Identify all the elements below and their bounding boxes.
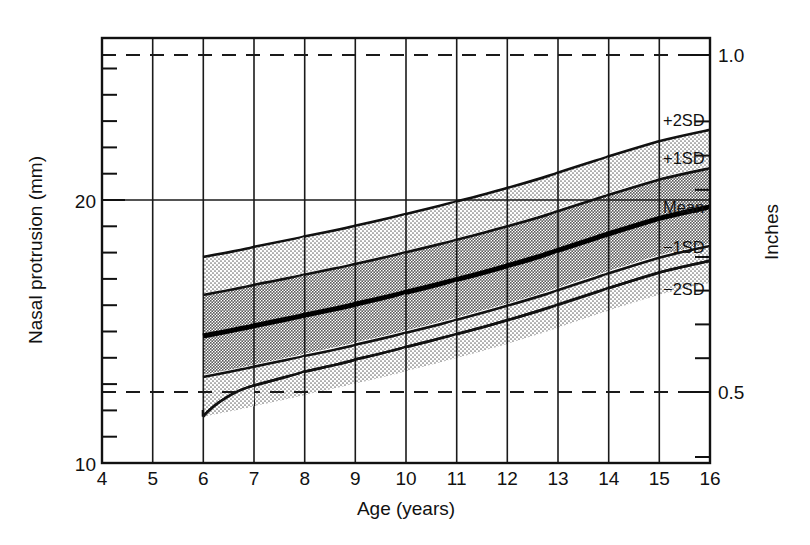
x-tick-label-4: 4 xyxy=(97,468,108,489)
y-axis-title: Nasal protrusion (mm) xyxy=(25,156,46,344)
band-label-minus2sd: −2SD xyxy=(663,280,705,298)
band-label-minus1sd: −1SD xyxy=(663,238,705,256)
x-tick-label-5: 5 xyxy=(147,468,158,489)
band-label-plus2sd: +2SD xyxy=(663,111,705,129)
band-label-mean: Mean xyxy=(663,198,704,216)
x-tick-label-13: 13 xyxy=(547,468,568,489)
band-label-plus1sd: +1SD xyxy=(663,149,705,167)
x-tick-label-16: 16 xyxy=(699,468,720,489)
x-tick-label-15: 15 xyxy=(649,468,670,489)
x-tick-label-14: 14 xyxy=(598,468,620,489)
y2-tick-label-0-5: 0.5 xyxy=(718,382,744,403)
x-tick-label-8: 8 xyxy=(299,468,310,489)
x-tick-label-6: 6 xyxy=(198,468,209,489)
x-axis-title: Age (years) xyxy=(357,498,455,519)
y-tick-label-10: 10 xyxy=(75,454,96,475)
x-tick-label-12: 12 xyxy=(497,468,518,489)
chart-svg: 4 5 6 7 8 9 10 11 12 13 14 15 16 20 10 1… xyxy=(0,0,810,545)
y2-tick-label-1-0: 1.0 xyxy=(718,45,744,66)
x-tick-label-7: 7 xyxy=(249,468,260,489)
y2-axis-title: Inches xyxy=(761,204,782,260)
nasal-protrusion-growth-chart: 4 5 6 7 8 9 10 11 12 13 14 15 16 20 10 1… xyxy=(0,0,810,545)
x-tick-label-11: 11 xyxy=(447,468,467,489)
x-tick-label-10: 10 xyxy=(395,468,416,489)
y-tick-label-20: 20 xyxy=(75,191,96,212)
x-tick-label-9: 9 xyxy=(350,468,361,489)
